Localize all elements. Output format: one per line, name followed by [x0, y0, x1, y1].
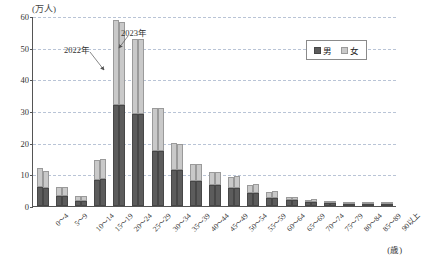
population-bar-chart: (万人) 0102030405060 0〜45〜910〜1415〜1920〜24…: [0, 0, 404, 259]
annotation-arrow-2022-icon: [0, 0, 404, 259]
